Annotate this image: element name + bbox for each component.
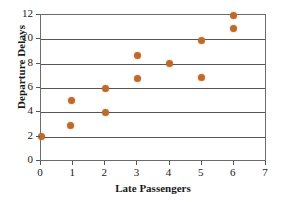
x-tick-mark (201, 161, 202, 165)
gridline (41, 112, 265, 113)
y-tick-label: 0 (28, 153, 34, 165)
y-tick-label: 6 (28, 80, 34, 92)
data-point (198, 37, 205, 44)
y-tick-mark (36, 87, 40, 88)
x-tick-label: 2 (94, 166, 114, 178)
data-point (68, 97, 75, 104)
x-tick-label: 5 (191, 166, 211, 178)
x-tick-mark (40, 161, 41, 165)
scatter-plot-figure: Departure Delays 024681012 01234567 Late… (0, 0, 290, 202)
data-point (198, 74, 205, 81)
data-point (102, 109, 109, 116)
gridline (41, 64, 265, 65)
x-tick-label: 7 (255, 166, 275, 178)
y-tick-mark (36, 136, 40, 137)
y-tick-label: 2 (28, 129, 34, 141)
x-tick-label: 6 (223, 166, 243, 178)
y-tick-mark (36, 38, 40, 39)
data-point (230, 12, 237, 19)
plot-area (40, 14, 266, 161)
data-point (102, 85, 109, 92)
x-tick-mark (233, 161, 234, 165)
x-tick-label: 1 (62, 166, 82, 178)
x-tick-label: 4 (159, 166, 179, 178)
y-tick-label: 8 (28, 56, 34, 68)
data-point (134, 52, 141, 59)
y-tick-mark (36, 111, 40, 112)
y-tick-label: 10 (22, 31, 33, 43)
data-point (38, 133, 45, 140)
data-point (134, 75, 141, 82)
gridline (41, 137, 265, 138)
gridline (41, 39, 265, 40)
x-tick-mark (136, 161, 137, 165)
y-axis-title: Departure Delays (14, 0, 28, 152)
data-point (67, 122, 74, 129)
x-tick-label: 3 (126, 166, 146, 178)
y-tick-mark (36, 14, 40, 15)
x-tick-mark (104, 161, 105, 165)
gridline (41, 88, 265, 89)
x-tick-mark (265, 161, 266, 165)
x-tick-label: 0 (30, 166, 50, 178)
data-point (166, 60, 173, 67)
y-tick-label: 12 (22, 7, 33, 19)
y-tick-label: 4 (28, 104, 34, 116)
y-tick-mark (36, 63, 40, 64)
x-tick-mark (72, 161, 73, 165)
x-tick-mark (169, 161, 170, 165)
x-axis-title: Late Passengers (40, 182, 266, 194)
data-point (230, 25, 237, 32)
